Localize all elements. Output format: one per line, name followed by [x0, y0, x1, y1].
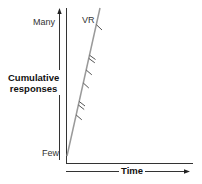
y-high-label: Many [33, 17, 55, 27]
y-axis-title-line1: Cumulative [8, 72, 59, 83]
x-axis-title: Time [119, 166, 145, 176]
y-axis-title: Cumulative responses [8, 72, 59, 94]
y-axis-title-line2: responses [8, 83, 59, 94]
vr-curve [67, 8, 100, 156]
plot-axes [66, 8, 193, 164]
y-low-label: Few [42, 148, 59, 158]
cumulative-record-diagram: Many Few Cumulative responses VR Time [0, 0, 202, 184]
series-label-vr: VR [82, 15, 95, 25]
reinforcement-marks [76, 25, 102, 120]
